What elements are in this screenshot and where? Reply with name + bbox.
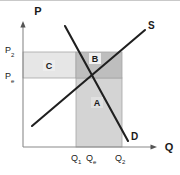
price-axis-arrow (20, 21, 25, 28)
quantity-tick-q2-label: Q2 (115, 153, 126, 165)
region-a-label: A (94, 98, 101, 108)
price-tick-p2-label: P2 (5, 45, 15, 58)
chart-canvas: P Q P2 Pe Q1 Qe Q2 S D C B A (0, 0, 180, 175)
supply-curve-label: S (148, 20, 155, 31)
supply-demand-figure: P Q P2 Pe Q1 Qe Q2 S D C B A (0, 0, 180, 175)
price-tick-pe-label: Pe (5, 71, 15, 84)
quantity-axis-arrow (151, 145, 158, 150)
price-axis-title: P (34, 5, 41, 17)
quantity-tick-q1-label: Q1 (71, 153, 82, 165)
demand-curve-label: D (131, 131, 138, 142)
region-b-label: B (92, 54, 99, 64)
region-c-label: C (46, 61, 53, 71)
quantity-axis-title: Q (165, 141, 174, 153)
quantity-tick-qe-label: Qe (86, 153, 97, 165)
